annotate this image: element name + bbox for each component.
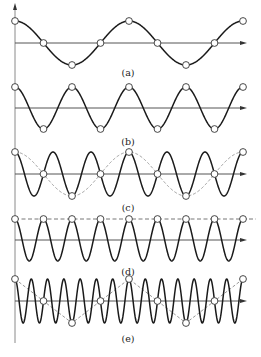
sample-point bbox=[211, 216, 218, 223]
sample-point bbox=[97, 298, 104, 305]
x-axis-arrow-icon bbox=[240, 41, 247, 45]
sample-point bbox=[12, 18, 19, 25]
y-axis-arrow-icon bbox=[13, 3, 17, 10]
x-axis-arrow-icon bbox=[240, 238, 247, 242]
sample-point bbox=[154, 216, 161, 223]
sample-point bbox=[154, 40, 161, 47]
sample-point bbox=[12, 216, 19, 223]
aliasing-diagram: (a) (b) (c) (d) (e) bbox=[0, 0, 261, 357]
sample-point bbox=[240, 84, 247, 91]
sample-point bbox=[154, 171, 161, 178]
sample-point bbox=[97, 126, 104, 133]
sample-point bbox=[69, 216, 76, 223]
sample-point bbox=[240, 149, 247, 156]
sample-point bbox=[40, 298, 47, 305]
sample-point bbox=[211, 126, 218, 133]
sample-point bbox=[12, 276, 19, 283]
sample-point bbox=[126, 18, 133, 25]
sample-point bbox=[154, 126, 161, 133]
sample-point bbox=[183, 193, 190, 200]
sample-point bbox=[211, 298, 218, 305]
sample-point bbox=[126, 149, 133, 156]
x-axis-arrow-icon bbox=[240, 299, 247, 303]
panel-d bbox=[12, 216, 256, 261]
sample-point bbox=[69, 193, 76, 200]
sample-point bbox=[40, 126, 47, 133]
sample-point bbox=[97, 40, 104, 47]
panel-a bbox=[12, 18, 247, 69]
sample-point bbox=[69, 84, 76, 91]
sample-point bbox=[69, 320, 76, 327]
x-axis-arrow-icon bbox=[240, 172, 247, 176]
sample-point bbox=[240, 18, 247, 25]
panel-label-c: (c) bbox=[122, 202, 135, 213]
panel-c bbox=[12, 149, 247, 200]
sample-point bbox=[97, 171, 104, 178]
sample-point bbox=[154, 298, 161, 305]
sample-point bbox=[183, 216, 190, 223]
sample-point bbox=[69, 62, 76, 69]
sample-point bbox=[211, 40, 218, 47]
sample-point bbox=[40, 216, 47, 223]
sample-point bbox=[40, 40, 47, 47]
sample-point bbox=[126, 84, 133, 91]
sample-point bbox=[97, 216, 104, 223]
sample-point bbox=[12, 84, 19, 91]
sample-point bbox=[183, 62, 190, 69]
x-axis-arrow-icon bbox=[240, 106, 247, 110]
sample-point bbox=[126, 216, 133, 223]
panels bbox=[12, 18, 256, 327]
sample-point bbox=[40, 171, 47, 178]
sample-point bbox=[240, 276, 247, 283]
panel-label-e: (e) bbox=[121, 333, 134, 344]
sample-point bbox=[211, 171, 218, 178]
panel-label-b: (b) bbox=[121, 136, 135, 147]
sample-point bbox=[12, 149, 19, 156]
sample-point bbox=[240, 216, 247, 223]
sample-point bbox=[183, 320, 190, 327]
panel-label-d: (d) bbox=[121, 266, 135, 277]
sample-point bbox=[183, 84, 190, 91]
panel-e bbox=[12, 276, 247, 327]
panel-label-a: (a) bbox=[121, 67, 134, 78]
panel-b bbox=[12, 84, 247, 133]
